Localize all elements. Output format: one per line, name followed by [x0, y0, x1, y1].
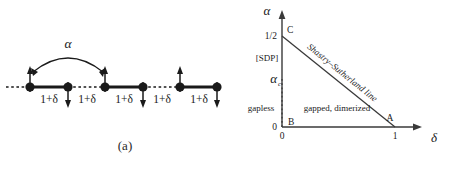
- y-axis-arrowhead: [279, 10, 286, 19]
- chain-site-4: [138, 82, 147, 91]
- chain-site-2: [63, 82, 72, 91]
- panel-a: α 1+δ 1+δ 1+δ 1+δ 1+δ (a): [0, 0, 225, 177]
- chain-site-6: [212, 82, 221, 91]
- alpha-coupling-label: α: [64, 36, 72, 51]
- panel-a-caption: (a): [95, 138, 155, 154]
- panel-b-phase-diagram: α δ 1/2 α c 0 0 1 A B C [SDP] gapless ga…: [225, 0, 451, 177]
- bond-label-3: 1+δ: [115, 93, 133, 105]
- point-label-b: B: [288, 117, 294, 127]
- x-tick-one: 1: [393, 131, 398, 141]
- point-label-c: C: [287, 25, 293, 35]
- bond-label-5: 1+δ: [190, 93, 208, 105]
- y-axis-label: α: [264, 3, 272, 18]
- bond-label-1: 1+δ: [40, 93, 58, 105]
- region-label-gapped-dimerized: gapped, dimerized: [304, 103, 371, 113]
- alpha-coupling-arc: [31, 58, 105, 77]
- figure-container: α 1+δ 1+δ 1+δ 1+δ 1+δ (a): [0, 0, 451, 177]
- bond-label-2: 1+δ: [78, 93, 96, 105]
- chain-site-3: [100, 82, 109, 91]
- chain-site-1: [25, 82, 34, 91]
- shastry-sutherland-line-label: Shastry–Sutherland line: [305, 41, 379, 103]
- bond-label-4: 1+δ: [153, 93, 171, 105]
- y-tick-half: 1/2: [265, 31, 277, 41]
- chain-site-5: [175, 82, 184, 91]
- x-axis-arrowhead: [413, 124, 422, 131]
- point-label-a: A: [387, 113, 394, 123]
- panel-b: α δ 1/2 α c 0 0 1 A B C [SDP] gapless ga…: [225, 0, 451, 177]
- x-axis: [282, 124, 422, 131]
- y-tick-alpha-c: α: [270, 71, 278, 86]
- x-axis-label: δ: [431, 130, 438, 145]
- region-label-gapless: gapless: [248, 103, 275, 113]
- shastry-sutherland-line: [282, 36, 395, 127]
- y-tick-zero: 0: [272, 122, 277, 132]
- region-label-sdp: [SDP]: [256, 53, 279, 63]
- x-tick-zero: 0: [280, 131, 285, 141]
